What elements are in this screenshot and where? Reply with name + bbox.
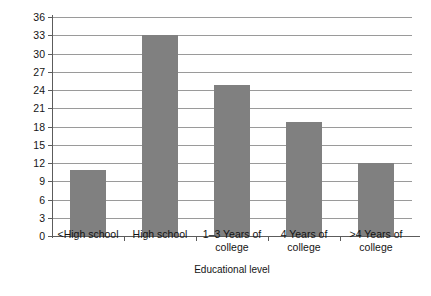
bar (358, 163, 394, 236)
bar (214, 85, 250, 236)
x-category-label: 1–3 Years ofcollege (196, 228, 268, 253)
bar-chart-figure: Percent of population 036912151821242730… (0, 0, 431, 296)
bar (142, 35, 178, 236)
x-category-label-line: <High school (52, 228, 124, 241)
y-axis-tick-label: 24 (33, 85, 45, 96)
y-axis-tick (48, 35, 52, 36)
y-axis-tick-label: 3 (39, 212, 45, 223)
x-category-label: <High school (52, 228, 124, 241)
y-axis-tick-label: 9 (39, 176, 45, 187)
y-axis-tick (48, 181, 52, 182)
y-axis-tick-label: 15 (33, 139, 45, 150)
x-axis-title: Educational level (52, 264, 412, 276)
x-category-label: >4 Years ofcollege (340, 228, 412, 253)
y-axis-tick-label: 33 (33, 30, 45, 41)
y-axis-tick-label: 27 (33, 66, 45, 77)
y-axis-tick (48, 127, 52, 128)
bar (286, 122, 322, 236)
gridline (53, 72, 412, 73)
y-axis-tick (48, 108, 52, 109)
y-axis-tick (48, 17, 52, 18)
x-category-label-line: college (268, 241, 340, 254)
y-axis-tick-label: 36 (33, 12, 45, 23)
x-category-label-line: college (196, 241, 268, 254)
x-category-label-line: High school (124, 228, 196, 241)
x-category-label: High school (124, 228, 196, 241)
y-axis-tick-label: 18 (33, 121, 45, 132)
y-axis-tick-label: 30 (33, 48, 45, 59)
y-axis-tick (48, 145, 52, 146)
y-axis-tick-label: 0 (39, 231, 45, 242)
gridline (53, 35, 412, 36)
y-axis-tick-label: 6 (39, 194, 45, 205)
plot-area: 0369121518212427303336 (52, 17, 412, 236)
y-axis-tick (48, 54, 52, 55)
y-axis-tick (48, 218, 52, 219)
y-axis-tick-label: 12 (33, 158, 45, 169)
gridline (53, 17, 412, 18)
x-category-label-line: 4 Years of (268, 228, 340, 241)
x-category-label-line: 1–3 Years of (196, 228, 268, 241)
y-axis-tick (48, 90, 52, 91)
x-category-label-line: college (340, 241, 412, 254)
y-axis-tick (48, 163, 52, 164)
y-axis-tick-label: 21 (33, 103, 45, 114)
bar (70, 170, 106, 236)
y-axis-tick (48, 200, 52, 201)
x-category-label-line: >4 Years of (340, 228, 412, 241)
y-axis-tick (48, 72, 52, 73)
x-category-label: 4 Years ofcollege (268, 228, 340, 253)
gridline (53, 54, 412, 55)
